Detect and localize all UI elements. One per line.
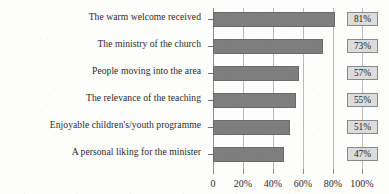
x-axis-tick — [213, 169, 214, 174]
value-callout-rail — [362, 8, 363, 169]
category-label: The ministry of the church — [0, 39, 201, 49]
bar — [213, 93, 296, 108]
x-axis-tick — [303, 169, 304, 174]
bar — [213, 12, 335, 27]
gridline-80 — [333, 8, 334, 169]
category-label: People moving into the area — [0, 66, 201, 76]
x-axis-tick — [273, 169, 274, 174]
x-axis-tick — [333, 169, 334, 174]
x-axis-tick — [243, 169, 244, 174]
category-label: A personal liking for the minister — [0, 147, 201, 157]
gridline-0 — [213, 8, 214, 169]
gridline-60 — [303, 8, 304, 169]
category-label: Enjoyable children's/youth programme — [0, 120, 201, 130]
category-label: The warm welcome received — [0, 12, 201, 22]
plot-area: 0 20% 40% 60% 80% 100% — [213, 8, 363, 169]
x-axis-tick-label: 100% — [350, 179, 373, 189]
data-label-box: 47% — [347, 147, 378, 161]
bar — [213, 39, 323, 54]
gridline-40 — [273, 8, 274, 169]
category-axis-labels: The warm welcome received The ministry o… — [0, 0, 201, 194]
data-label-box: 51% — [347, 120, 378, 134]
data-label-box: 73% — [347, 39, 378, 53]
x-axis-tick-label: 40% — [264, 179, 282, 189]
x-axis-tick-label: 20% — [234, 179, 252, 189]
data-label-box: 57% — [347, 66, 378, 80]
gridline-20 — [243, 8, 244, 169]
bar — [213, 66, 299, 81]
x-axis-tick-label: 0 — [211, 179, 216, 189]
data-label-box: 81% — [347, 12, 378, 26]
x-axis-tick-label: 60% — [294, 179, 312, 189]
category-label: The relevance of the teaching — [0, 93, 201, 103]
horizontal-bar-chart: The warm welcome received The ministry o… — [0, 0, 389, 194]
x-axis-tick-label: 80% — [324, 179, 342, 189]
data-label-box: 55% — [347, 93, 378, 107]
bar — [213, 147, 284, 162]
x-axis-tick — [362, 169, 363, 174]
bar — [213, 120, 290, 135]
